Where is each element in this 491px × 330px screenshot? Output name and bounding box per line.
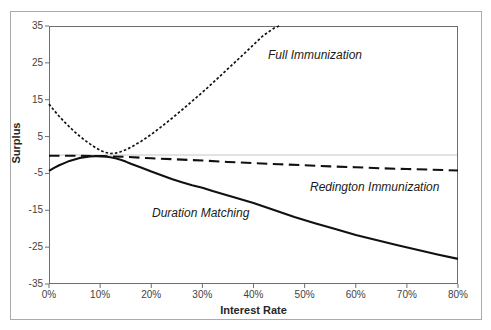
x-tick-label: 60%	[334, 289, 378, 301]
y-tick-label: 15	[0, 94, 43, 106]
x-tick-label: 10%	[78, 289, 122, 301]
series-label-duration-matching: Duration Matching	[152, 206, 249, 220]
y-tick-label: -25	[0, 241, 43, 253]
chart-plot-area	[0, 0, 491, 330]
series-line-dotted	[49, 26, 279, 154]
x-tick-label: 0%	[27, 289, 71, 301]
x-tick-label: 20%	[129, 289, 173, 301]
series-label-redington-immunization: Redington Immunization	[310, 180, 439, 194]
x-tick-label: 40%	[232, 289, 276, 301]
x-tick-label: 70%	[385, 289, 429, 301]
series-label-full-immunization: Full Immunization	[268, 48, 362, 62]
y-tick-label: -5	[0, 167, 43, 179]
x-tick-label: 80%	[436, 289, 480, 301]
y-tick-label: -15	[0, 204, 43, 216]
x-axis-title: Interest Rate	[193, 304, 314, 316]
x-tick-label: 50%	[283, 289, 327, 301]
x-tick-label: 30%	[180, 289, 224, 301]
surplus-chart-figure: 3525155-5-15-25-35 0%10%20%30%40%50%60%7…	[0, 0, 491, 330]
y-tick-label: 35	[0, 20, 43, 32]
series-line-solid	[49, 156, 458, 259]
y-axis-title: Surplus	[10, 123, 22, 164]
y-tick-label: 25	[0, 57, 43, 69]
